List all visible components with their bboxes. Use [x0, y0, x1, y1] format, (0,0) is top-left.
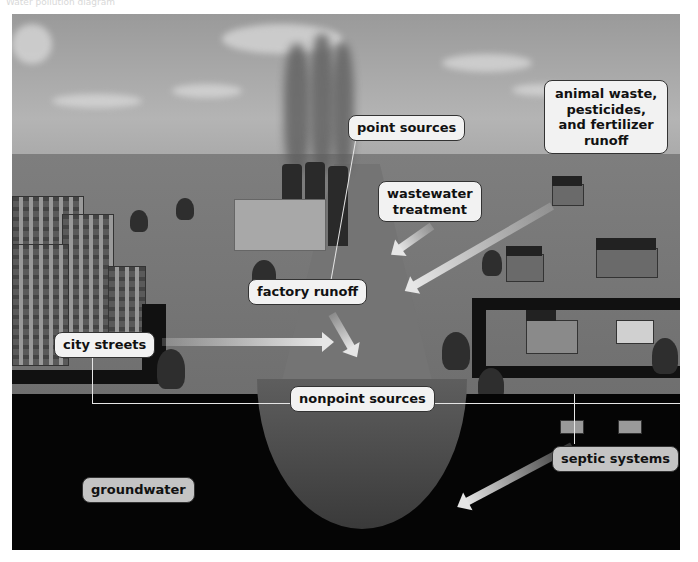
- label-point-sources: point sources: [348, 115, 465, 141]
- figure-caption: Water pollution diagram: [6, 0, 115, 7]
- label-septic-systems: septic systems: [552, 446, 679, 472]
- arrow-icon: [162, 338, 324, 346]
- house-icon: [506, 254, 544, 282]
- water-pollution-diagram: point sources animal waste, pesticides, …: [12, 14, 680, 550]
- label-wastewater-treatment: wastewater treatment: [378, 181, 482, 222]
- tree-icon: [157, 349, 185, 389]
- label-factory-runoff: factory runoff: [248, 279, 367, 305]
- label-city-streets: city streets: [54, 332, 155, 358]
- label-groundwater: groundwater: [82, 477, 195, 503]
- factory-icon: [234, 199, 326, 251]
- septic-tank-icon: [560, 420, 584, 434]
- label-animal-waste: animal waste, pesticides, and fertilizer…: [544, 80, 668, 154]
- label-nonpoint-sources: nonpoint sources: [290, 386, 435, 412]
- city-road: [12, 370, 162, 384]
- farm-icon: [552, 184, 584, 206]
- smoke-icon: [284, 44, 310, 174]
- suburb-road: [472, 298, 680, 310]
